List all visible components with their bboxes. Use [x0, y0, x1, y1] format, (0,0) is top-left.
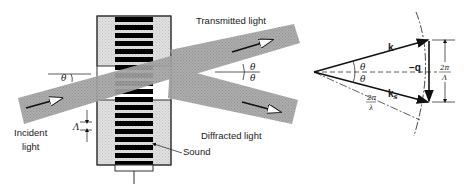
ks-label: ks	[388, 88, 398, 101]
k-label: k	[388, 42, 394, 53]
svg-text:2π: 2π	[439, 64, 449, 72]
acousto-optic-cell-diagram: θ θ θ Λ Transmitted light Diffracted lig…	[14, 15, 300, 184]
sound-label: Sound	[183, 146, 210, 157]
k-sphere-arc	[414, 12, 426, 136]
transmitted-light-label: Transmitted light	[196, 15, 266, 26]
minus-q-label: −q	[409, 62, 421, 73]
transducer	[115, 165, 153, 171]
theta-diffracted-label: θ	[250, 73, 256, 83]
svg-text:λ: λ	[368, 104, 373, 112]
theta-incident-label: θ	[61, 73, 67, 83]
svg-text:Λ: Λ	[441, 74, 447, 82]
lambda-sound-label: Λ	[72, 122, 80, 132]
incident-light-label-line2: light	[22, 141, 40, 152]
theta-transmitted-label: θ	[250, 62, 256, 72]
bragg-diffraction-figure: θ θ θ Λ Transmitted light Diffracted lig…	[0, 0, 464, 186]
theta-bottom-label: θ	[360, 74, 366, 84]
diffracted-light-label: Diffracted light	[201, 130, 262, 141]
incident-light-label-line1: Incident	[14, 127, 48, 138]
wave-vector-diagram: θ θ k ks −q 2π λ 2π Λ	[314, 12, 455, 136]
radius-magnitude-label: 2π λ	[366, 94, 376, 112]
sound-wavelength-dimension: Λ	[72, 110, 92, 142]
theta-top-label: θ	[360, 62, 366, 72]
q-magnitude-dimension: 2π Λ	[432, 40, 455, 102]
svg-text:2π: 2π	[366, 94, 376, 102]
